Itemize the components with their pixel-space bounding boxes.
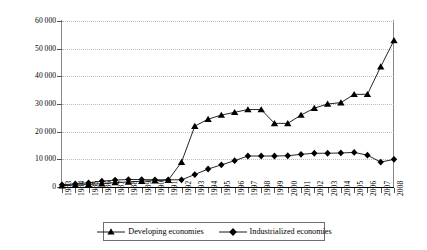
legend-item-developing: Developing economies [96, 227, 203, 237]
data-point [192, 171, 198, 178]
series-diamond [59, 149, 397, 188]
series-line [62, 152, 394, 184]
data-point [231, 157, 237, 164]
legend-label-developing: Developing economies [128, 227, 203, 237]
data-point [245, 153, 251, 160]
legend-item-industrialized: Industrialized economies [218, 227, 332, 237]
data-point [178, 176, 184, 183]
data-point [324, 150, 330, 157]
legend-label-industrialized: Industrialized economies [250, 227, 332, 237]
data-point [298, 151, 304, 158]
data-point [337, 99, 344, 105]
data-point [338, 150, 344, 157]
data-point [311, 105, 318, 111]
data-point [311, 150, 317, 157]
data-point [191, 123, 198, 129]
legend-marker-triangle-icon [96, 227, 126, 237]
data-point [205, 166, 211, 173]
series-triangle [58, 37, 397, 188]
data-point [204, 116, 211, 122]
data-point [218, 161, 224, 168]
data-point [378, 159, 384, 166]
data-point [297, 112, 304, 118]
series-layer [0, 0, 427, 250]
data-point [285, 152, 291, 159]
data-point [258, 153, 264, 160]
data-point [271, 153, 277, 160]
data-point [391, 156, 397, 163]
series-line [62, 40, 394, 185]
data-point [377, 63, 384, 69]
data-point [351, 149, 357, 156]
chart-legend: Developing economies Industrialized econ… [103, 222, 325, 241]
data-point [364, 152, 370, 159]
chart-figure: US$ million 010 00020 00030 00040 00050 … [0, 0, 427, 250]
data-point [178, 159, 185, 165]
data-point [390, 37, 397, 43]
legend-marker-diamond-icon [218, 227, 248, 237]
